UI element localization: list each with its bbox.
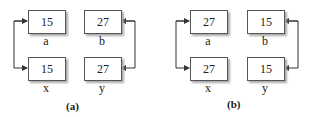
box-a: 27 xyxy=(190,10,228,34)
box-value: 15 xyxy=(41,15,53,30)
box-value: 27 xyxy=(97,15,109,30)
box-y: 27 xyxy=(84,57,122,81)
box-value: 27 xyxy=(203,62,215,77)
box-value: 15 xyxy=(41,62,53,77)
box-x: 15 xyxy=(28,57,66,81)
label-y: y xyxy=(247,81,283,96)
box-y: 15 xyxy=(247,57,285,81)
box-value: 15 xyxy=(260,62,272,77)
box-x: 27 xyxy=(190,57,228,81)
label-b: b xyxy=(84,34,120,49)
label-a: a xyxy=(190,34,226,49)
label-x: x xyxy=(28,81,64,96)
caption-a: (a) xyxy=(66,100,79,112)
box-b: 15 xyxy=(247,10,285,34)
box-a: 15 xyxy=(28,10,66,34)
caption-b: (b) xyxy=(227,98,240,110)
label-y: y xyxy=(84,81,120,96)
label-a: a xyxy=(28,34,64,49)
label-x: x xyxy=(190,81,226,96)
box-value: 27 xyxy=(203,15,215,30)
box-value: 27 xyxy=(97,62,109,77)
box-value: 15 xyxy=(260,15,272,30)
box-b: 27 xyxy=(84,10,122,34)
label-b: b xyxy=(247,34,283,49)
